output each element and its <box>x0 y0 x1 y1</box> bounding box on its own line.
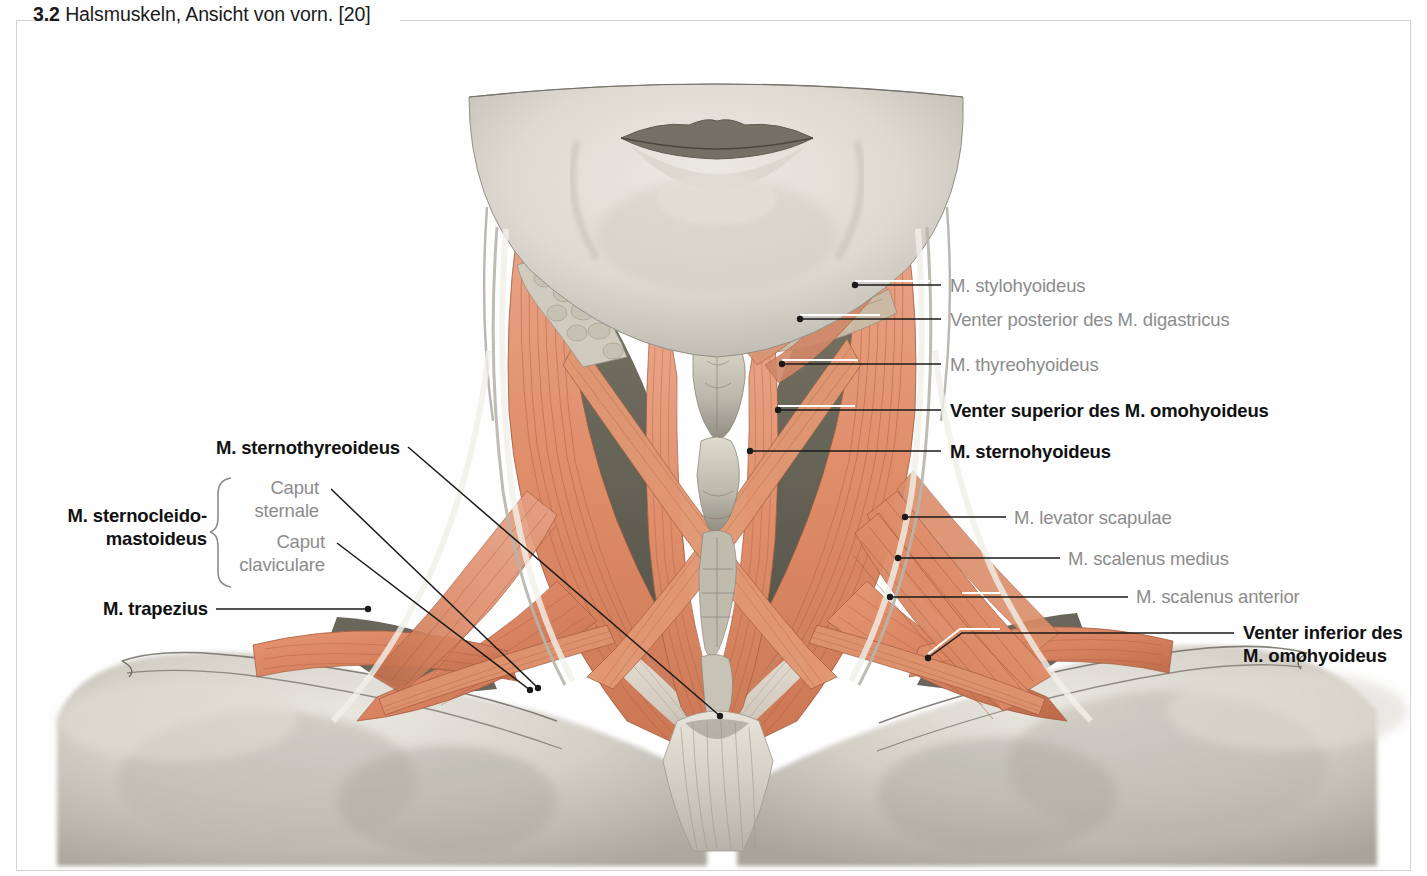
label-caput-sternale: Caput sternale <box>254 477 319 522</box>
frame-right-edge <box>1410 20 1411 870</box>
label-m-thyreohyoideus: M. thyreohyoideus <box>950 354 1099 377</box>
label-m-trapezius: M. trapezius <box>103 598 208 621</box>
label-m-scalenus-medius: M. scalenus medius <box>1068 548 1229 571</box>
label-caput-claviculare: Caput claviculare <box>239 531 325 576</box>
label-venter-superior-omohyoideus: Venter superior des M. omohyoideus <box>950 400 1269 423</box>
label-m-sternohyoideus: M. sternohyoideus <box>950 441 1111 464</box>
figure-page: 3.2 Halsmuskeln, Ansicht von vorn. [20] <box>0 0 1427 876</box>
label-venter-posterior-digastricus: Venter posterior des M. digastricus <box>950 309 1230 332</box>
label-m-sternothyreoideus: M. sternothyreoideus <box>216 437 400 460</box>
label-m-scalenus-anterior: M. scalenus anterior <box>1136 586 1300 609</box>
label-m-levator-scapulae: M. levator scapulae <box>1014 507 1172 530</box>
label-venter-inferior-omohyoideus: Venter inferior des M. omohyoideus <box>1243 622 1403 667</box>
frame-bottom-edge <box>16 870 1411 871</box>
label-m-sternocleidomastoideus: M. sternocleido- mastoideus <box>68 505 207 550</box>
label-m-stylohyoideus: M. stylohyoideus <box>950 275 1085 298</box>
